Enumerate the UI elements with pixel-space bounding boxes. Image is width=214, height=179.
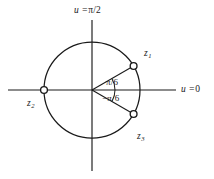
angle-label-positive: π/6 — [106, 78, 118, 87]
angle-label-negative: −π/6 — [102, 94, 119, 103]
point-label-z1-subscript: 1 — [148, 52, 152, 59]
horizontal-axis-variable: u = — [181, 84, 195, 94]
point-label-z2-subscript: 2 — [31, 102, 35, 109]
point-label-z2: z2 — [27, 99, 34, 109]
point-marker-z3 — [130, 111, 137, 118]
point-label-z3: z3 — [137, 132, 144, 142]
vertical-axis-value: π/2 — [88, 5, 101, 15]
horizontal-axis-value: 0 — [195, 84, 200, 94]
vertical-axis-label: u =π/2 — [74, 6, 101, 16]
figure-canvas: u =π/2 u =0 π/6 −π/6 z1 z2 z3 — [0, 0, 214, 179]
point-label-z1: z1 — [144, 49, 151, 59]
point-marker-z2 — [41, 87, 48, 94]
horizontal-axis-label: u =0 — [181, 85, 200, 95]
vertical-axis-variable: u = — [74, 5, 88, 15]
point-label-z3-subscript: 3 — [141, 135, 145, 142]
point-marker-z1 — [130, 63, 137, 70]
